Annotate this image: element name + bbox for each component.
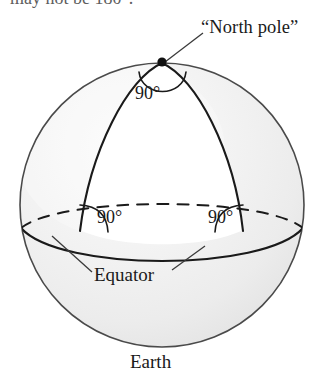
- angle-label-equator-left: 90°: [97, 208, 122, 226]
- angle-label-equator-right: 90°: [208, 208, 233, 226]
- equator-label: Equator: [94, 265, 154, 284]
- north-pole-label: “North pole”: [201, 18, 298, 37]
- figure-canvas: [0, 0, 328, 384]
- north-pole-dot: [157, 57, 166, 66]
- leader-line-north-pole: [165, 33, 203, 62]
- angle-label-pole: 90°: [135, 84, 160, 102]
- spherical-triangle-figure: may not be 180°.: [0, 0, 328, 384]
- earth-caption: Earth: [130, 352, 171, 371]
